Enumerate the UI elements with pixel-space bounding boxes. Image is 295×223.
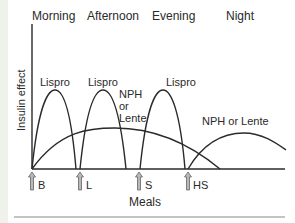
period-label-morning: Morning — [32, 9, 75, 23]
meal-arrow-icon-hs — [185, 172, 192, 190]
nph-label-day-line1: NPH — [119, 88, 142, 100]
nph-label-day-line3: Lente — [119, 112, 147, 124]
period-label-afternoon: Afternoon — [87, 9, 139, 23]
lispro-curve-supper — [140, 90, 185, 169]
nph-lente-curve-bedtime — [188, 133, 286, 169]
lispro-label-1: Lispro — [40, 76, 70, 88]
meal-arrow-icon-l — [77, 172, 84, 190]
meal-label-b: B — [38, 179, 45, 191]
meal-label-l: L — [86, 179, 92, 191]
meal-arrow-icon-s — [136, 172, 143, 190]
nph-label-day-line2: or — [119, 100, 129, 112]
meal-label-hs: HS — [193, 179, 208, 191]
y-axis-label: Insulin effect — [15, 69, 27, 131]
lispro-curve-breakfast — [32, 90, 76, 169]
x-axis-label: Meals — [129, 195, 161, 209]
period-label-night: Night — [226, 9, 255, 23]
lispro-label-2: Lispro — [88, 76, 118, 88]
nph-label-night: NPH or Lente — [202, 115, 269, 127]
insulin-chart: Morning Afternoon Evening Night Insulin … — [0, 0, 295, 223]
meal-arrow-icon-b — [29, 172, 36, 190]
lispro-label-3: Lispro — [166, 76, 196, 88]
meal-label-s: S — [145, 179, 152, 191]
period-label-evening: Evening — [152, 9, 195, 23]
